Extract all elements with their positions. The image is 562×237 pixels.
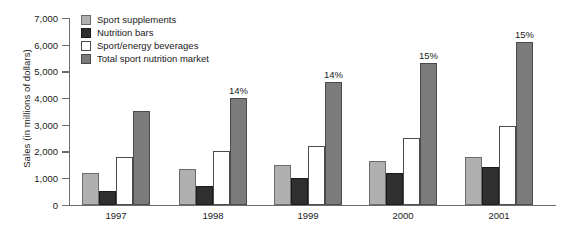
y-axis-tick-label: 6,000 bbox=[14, 39, 58, 50]
y-axis-tick bbox=[62, 151, 69, 152]
legend-swatch-icon bbox=[81, 15, 91, 25]
legend-item: Sport supplements bbox=[81, 14, 209, 26]
bar bbox=[274, 165, 291, 205]
x-axis-label-1999: 1999 bbox=[268, 210, 348, 221]
y-axis-tick bbox=[62, 45, 69, 46]
legend-item-label: Total sport nutrition market bbox=[97, 54, 209, 64]
legend-swatch-icon bbox=[81, 41, 91, 51]
x-axis-label-1998: 1998 bbox=[173, 210, 253, 221]
y-axis-tick-label: 4,000 bbox=[14, 92, 58, 103]
legend-item-label: Sport supplements bbox=[97, 15, 176, 25]
y-axis-tick-label: 3,000 bbox=[14, 119, 58, 130]
bar bbox=[82, 173, 99, 205]
bar bbox=[420, 63, 437, 204]
y-axis-tick-label: 5,000 bbox=[14, 66, 58, 77]
x-axis-label-2000: 2000 bbox=[363, 210, 443, 221]
legend-item-label: Nutrition bars bbox=[97, 28, 154, 38]
y-axis-tick-label: 7,000 bbox=[14, 13, 58, 24]
bar bbox=[213, 151, 230, 204]
y-axis-tick-label: 2,000 bbox=[14, 146, 58, 157]
bar-group bbox=[369, 18, 437, 205]
legend-item: Total sport nutrition market bbox=[81, 53, 209, 65]
legend-swatch-icon bbox=[81, 54, 91, 64]
y-axis-tick bbox=[62, 178, 69, 179]
bar bbox=[325, 82, 342, 205]
y-axis-tick-label: 1,000 bbox=[14, 172, 58, 183]
bar bbox=[99, 191, 116, 204]
bar bbox=[369, 161, 386, 205]
bar bbox=[499, 126, 516, 205]
y-axis-tick bbox=[62, 18, 69, 19]
legend-item: Nutrition bars bbox=[81, 27, 209, 39]
y-axis-tick bbox=[62, 205, 69, 206]
bar bbox=[386, 173, 403, 205]
bar-group bbox=[274, 18, 342, 205]
bar bbox=[179, 169, 196, 205]
y-axis-tick bbox=[62, 98, 69, 99]
bar bbox=[196, 186, 213, 205]
bar bbox=[516, 42, 533, 205]
x-axis-line bbox=[69, 205, 556, 206]
bar-chart: Sales (in millions of dollars) 01,0002,0… bbox=[0, 0, 562, 237]
y-axis-tick bbox=[62, 71, 69, 72]
bar bbox=[291, 178, 308, 205]
y-axis-tick-label: 0 bbox=[14, 199, 58, 210]
legend-item-label: Sport/energy beverages bbox=[97, 41, 198, 51]
x-axis-label-2001: 2001 bbox=[459, 210, 539, 221]
bar-group bbox=[465, 18, 533, 205]
bar bbox=[403, 138, 420, 205]
bar bbox=[465, 157, 482, 205]
chart-legend: Sport supplementsNutrition barsSport/ene… bbox=[81, 14, 209, 66]
bar bbox=[116, 157, 133, 205]
x-axis-label-1997: 1997 bbox=[76, 210, 156, 221]
legend-item: Sport/energy beverages bbox=[81, 40, 209, 52]
bar-value-annotation: 14% bbox=[314, 69, 354, 80]
bar bbox=[230, 98, 247, 205]
bar bbox=[308, 146, 325, 205]
bar bbox=[482, 167, 499, 204]
legend-swatch-icon bbox=[81, 28, 91, 38]
bar-value-annotation: 14% bbox=[219, 85, 259, 96]
bar bbox=[133, 111, 150, 204]
bar-value-annotation: 15% bbox=[409, 50, 449, 61]
y-axis-tick bbox=[62, 125, 69, 126]
bar-value-annotation: 15% bbox=[505, 29, 545, 40]
